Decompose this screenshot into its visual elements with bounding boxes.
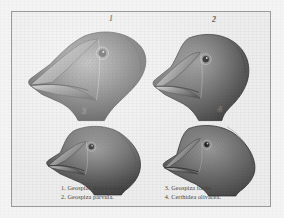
caption-species-name: Geospiza fortis. xyxy=(171,184,212,191)
engraving-area: 1 2 3 4 1. Geospiza magnirostris. 2. Geo… xyxy=(12,12,270,206)
caption-species-name: Geospiza magnirostris. xyxy=(68,184,127,191)
caption-species-name: Geospiza parvula. xyxy=(68,193,114,200)
caption-line: 4. Certhidea olivacea. xyxy=(165,193,221,201)
figure-number-3: 3 xyxy=(82,107,86,116)
plate-frame-border: 1 2 3 4 1. Geospiza magnirostris. 2. Geo… xyxy=(11,11,271,207)
caption-column-right: 3. Geospiza fortis. 4. Certhidea olivace… xyxy=(165,184,221,200)
caption-species-name: Certhidea olivacea. xyxy=(171,193,221,200)
finch-plate-root: 1 2 3 4 1. Geospiza magnirostris. 2. Geo… xyxy=(0,0,284,218)
caption-index: 2. xyxy=(61,193,66,200)
figure-number-4: 4 xyxy=(218,105,222,114)
finch-engraving-svg xyxy=(12,12,270,206)
figure-number-2: 2 xyxy=(212,15,216,24)
caption-line: 3. Geospiza fortis. xyxy=(165,184,221,192)
caption-block: 1. Geospiza magnirostris. 2. Geospiza pa… xyxy=(12,184,270,200)
caption-index: 1. xyxy=(61,184,66,191)
caption-line: 1. Geospiza magnirostris. xyxy=(61,184,127,192)
figure-2-geospiza-parvula xyxy=(153,34,249,120)
figure-number-1: 1 xyxy=(109,14,113,23)
caption-line: 2. Geospiza parvula. xyxy=(61,193,127,201)
figure-1-geospiza-magnirostris xyxy=(29,32,146,121)
caption-index: 3. xyxy=(165,184,170,191)
caption-index: 4. xyxy=(165,193,170,200)
caption-column-left: 1. Geospiza magnirostris. 2. Geospiza pa… xyxy=(61,184,127,200)
